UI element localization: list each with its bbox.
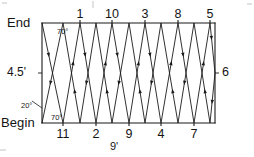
- zigzag-diagram: End Begin 4.5' 9' 6 110385 112947 70°70°…: [0, 0, 254, 157]
- angle-leader-group: [32, 101, 42, 108]
- bottom-vertex-label-9: 9: [119, 128, 139, 141]
- vertex-tick-group: [63, 20, 210, 126]
- angle-leader-line: [32, 101, 42, 108]
- width-dimension-label: 9': [110, 141, 118, 152]
- frame-group: [42, 23, 215, 123]
- direction-arrow: [210, 36, 214, 41]
- bottom-vertex-label-7: 7: [184, 128, 204, 141]
- end-label: End: [7, 16, 30, 29]
- right-edge-label: 6: [222, 66, 229, 79]
- begin-label: Begin: [1, 116, 35, 129]
- angle-bottom-interior-label: 70°: [51, 114, 62, 122]
- top-vertex-label-3: 3: [135, 8, 155, 21]
- zigzag-polyline: [42, 23, 215, 123]
- bottom-vertex-label-11: 11: [53, 128, 73, 141]
- direction-arrow: [210, 100, 214, 105]
- height-dimension-label: 4.5': [7, 66, 26, 78]
- angle-top-label: 70°: [57, 28, 68, 36]
- angle-left-vertical-label: 20°: [21, 102, 32, 110]
- top-vertex-label-5: 5: [200, 8, 220, 21]
- top-vertex-label-8: 8: [168, 8, 188, 21]
- bottom-vertex-label-2: 2: [86, 128, 106, 141]
- top-vertex-label-10: 10: [102, 8, 122, 21]
- top-vertex-label-1: 1: [70, 8, 90, 21]
- bottom-vertex-label-4: 4: [151, 128, 171, 141]
